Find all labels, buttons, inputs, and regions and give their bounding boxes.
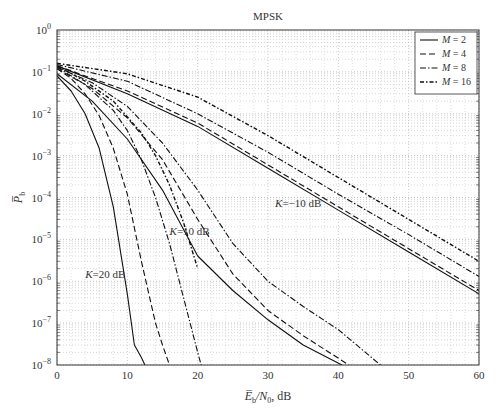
x-axis-label: E̅b/N0, dB xyxy=(244,389,292,405)
y-tick-label: 10−2 xyxy=(31,106,51,120)
x-tick-label: 50 xyxy=(403,369,415,381)
x-tick-label: 0 xyxy=(54,369,60,381)
x-tick-label: 10 xyxy=(122,369,134,381)
y-tick-label: 10−1 xyxy=(31,64,51,78)
legend: M = 2M = 4M = 8M = 16 xyxy=(415,32,477,94)
x-tick-label: 60 xyxy=(474,369,486,381)
y-axis-label: P̅b xyxy=(11,192,27,204)
curve-annotation: K=20 dB xyxy=(84,268,125,280)
y-tick-label: 100 xyxy=(36,22,51,36)
curve-annotation: K=10 dB xyxy=(169,225,210,237)
y-tick-label: 10−8 xyxy=(31,357,51,371)
series-curve xyxy=(57,69,349,365)
series-curve xyxy=(57,66,479,294)
curve-annotation: K=−10 dB xyxy=(274,197,321,209)
chart-svg: 010203040506010010−110−210−310−410−510−6… xyxy=(0,0,499,409)
x-tick-label: 40 xyxy=(333,369,345,381)
legend-label: M = 16 xyxy=(441,76,471,87)
y-tick-label: 10−7 xyxy=(31,315,51,329)
legend-label: M = 2 xyxy=(441,34,466,45)
x-tick-label: 30 xyxy=(263,369,275,381)
annotations: K=20 dBK=10 dBK=−10 dB xyxy=(84,197,321,280)
y-tick-label: 10−4 xyxy=(31,190,51,204)
y-tick-label: 10−6 xyxy=(31,273,51,287)
y-tick-label: 10−3 xyxy=(31,148,51,162)
y-tick-label: 10−5 xyxy=(31,231,51,245)
legend-label: M = 4 xyxy=(441,48,466,59)
chart: 010203040506010010−110−210−310−410−510−6… xyxy=(0,0,499,409)
x-tick-label: 20 xyxy=(192,369,204,381)
series-curve xyxy=(57,67,381,365)
chart-title: MPSK xyxy=(253,10,283,22)
series-curve xyxy=(57,67,201,365)
legend-label: M = 8 xyxy=(441,62,466,73)
